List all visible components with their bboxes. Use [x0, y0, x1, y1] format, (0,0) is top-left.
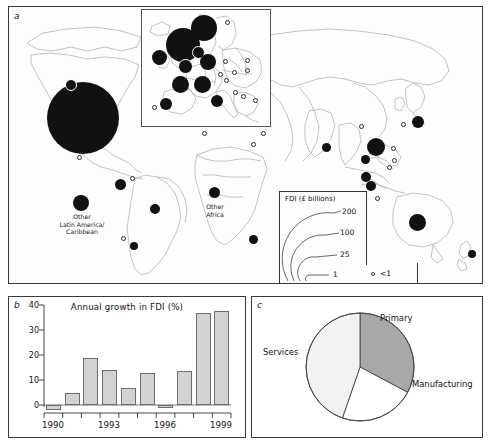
panel-c-pie-chart: c Primary Manufacturing Services — [251, 296, 483, 438]
bar-1990 — [46, 405, 61, 410]
figure-root: a — [0, 0, 491, 445]
bar-1997 — [177, 371, 192, 405]
legend-value-100: 100 — [340, 228, 354, 237]
panel-letter-c: c — [257, 300, 262, 310]
pie-label-primary: Primary — [380, 313, 412, 323]
legend-value-200: 200 — [342, 207, 356, 216]
bar-1998 — [196, 313, 211, 406]
bar-xtick-1999: 1999 — [204, 420, 238, 430]
panel-letter-a: a — [14, 11, 20, 21]
bar-1995 — [140, 373, 155, 406]
legend-less-than-icon — [371, 272, 375, 276]
panel-letter-b: b — [14, 300, 20, 310]
legend-value-1: 1 — [333, 270, 338, 279]
legend-less-than-label: <1 — [380, 269, 391, 278]
bar-1991 — [65, 393, 80, 406]
bar-xtick-1996: 1996 — [148, 420, 182, 430]
bar-1993 — [102, 370, 117, 405]
pie-svg — [252, 297, 482, 437]
panel-a-world-map: a — [8, 6, 483, 284]
bar-1992 — [83, 358, 98, 406]
bar-1994 — [121, 388, 136, 406]
legend-value-25: 25 — [340, 250, 350, 259]
bar-1999 — [214, 311, 229, 405]
pie-label-manufacturing: Manufacturing — [412, 379, 473, 389]
bar-xtick-1990: 1990 — [36, 420, 70, 430]
legend-title: FDI (£ billions) — [285, 195, 335, 203]
panel-b-bar-chart: b Annual growth in FDI (%) 40 30 20 10 0 — [8, 296, 246, 438]
bar-xtick-1993: 1993 — [92, 420, 126, 430]
pie-label-services: Services — [263, 347, 298, 357]
bar-1996 — [158, 405, 173, 408]
legend-arcs-svg — [9, 7, 482, 283]
